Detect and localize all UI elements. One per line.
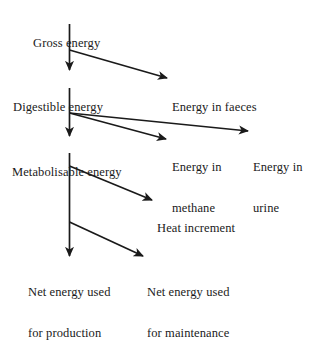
- node-net-energy-maintenance-line-2: for maintenance: [147, 327, 230, 341]
- node-digestible-energy: Digestible energy: [13, 74, 103, 142]
- edge-metabolisable-to-maintenance: [70, 222, 144, 256]
- node-net-energy-maintenance: Net energy used for maintenance: [147, 259, 230, 344]
- node-energy-in-urine: Energy in urine: [253, 134, 303, 242]
- node-metabolisable-energy-line-1: Metabolisable energy: [12, 166, 122, 180]
- node-net-energy-production: Net energy used for production: [28, 259, 111, 344]
- node-energy-in-methane-line-1: Energy in: [172, 161, 222, 175]
- node-energy-in-urine-line-2: urine: [253, 202, 303, 216]
- node-heat-increment-line-1: Heat increment: [157, 222, 235, 236]
- node-net-energy-maintenance-line-1: Net energy used: [147, 286, 230, 300]
- node-energy-in-faeces-line-1: Energy in faeces: [172, 101, 257, 115]
- node-heat-increment: Heat increment: [157, 195, 235, 263]
- node-metabolisable-energy: Metabolisable energy: [12, 139, 122, 207]
- node-gross-energy-line-1: Gross energy: [33, 37, 100, 51]
- node-energy-in-faeces: Energy in faeces: [172, 74, 257, 142]
- node-net-energy-production-line-2: for production: [28, 327, 111, 341]
- node-gross-energy: Gross energy: [33, 10, 100, 78]
- node-energy-in-urine-line-1: Energy in: [253, 161, 303, 175]
- node-net-energy-production-line-1: Net energy used: [28, 286, 111, 300]
- node-digestible-energy-line-1: Digestible energy: [13, 101, 103, 115]
